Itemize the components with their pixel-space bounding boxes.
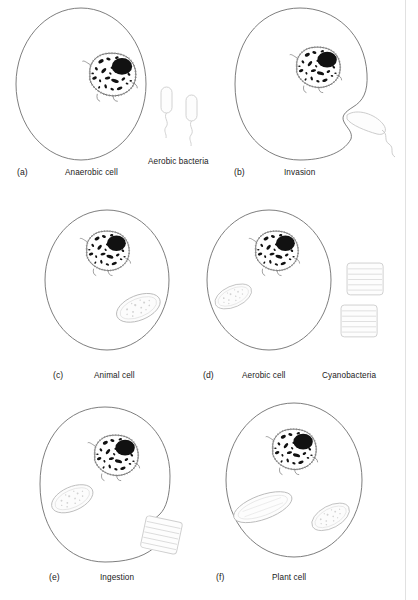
aerobic-bacterium-2 (186, 95, 197, 146)
panel-a (8, 4, 213, 169)
panel-c-drawing (25, 208, 200, 358)
panel-d (196, 208, 406, 358)
panel-a-label: Anaerobic cell (65, 168, 118, 177)
panel-e-label: Ingestion (100, 573, 134, 582)
cell-membrane (207, 210, 331, 350)
panel-f-letter: (f) (216, 572, 224, 582)
panel-f (208, 400, 398, 568)
aerobic-bacterium-1 (161, 87, 172, 138)
cell-membrane-indented (235, 8, 367, 160)
invading-bacterium (347, 112, 395, 157)
endosymbiosis-figure: (a) Anaerobic cell Aerobic bacteria (b) … (0, 0, 418, 600)
panel-e-letter: (e) (49, 572, 60, 582)
panel-c (25, 208, 200, 358)
panel-b-letter: (b) (234, 167, 245, 177)
panel-f-drawing (208, 400, 398, 568)
panel-d-drawing (196, 208, 406, 358)
ingested-cyanobacterium (140, 515, 183, 554)
panel-a-extra-label: Aerobic bacteria (148, 157, 209, 166)
panel-d-extra-label: Cyanobacteria (322, 371, 376, 380)
cell-membrane (226, 403, 362, 557)
panel-a-drawing (8, 4, 213, 169)
panel-d-label: Aerobic cell (242, 371, 286, 380)
panel-f-label: Plant cell (272, 573, 306, 582)
panel-c-letter: (c) (53, 370, 63, 380)
cyanobacterium-1 (347, 263, 383, 295)
panel-e (30, 404, 215, 569)
panel-b-label: Invasion (284, 168, 315, 177)
panel-b-drawing (225, 4, 410, 169)
panel-c-label: Animal cell (94, 371, 135, 380)
panel-b (225, 4, 410, 169)
cyanobacterium-2 (341, 305, 377, 337)
panel-a-letter: (a) (17, 167, 28, 177)
panel-d-letter: (d) (203, 370, 214, 380)
panel-e-drawing (30, 404, 215, 569)
